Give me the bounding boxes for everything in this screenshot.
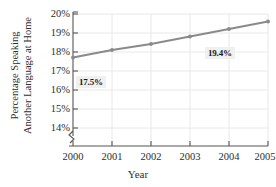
x-axis-label: Year <box>0 168 276 180</box>
chart-figure: Percentage Speaking Another Language at … <box>0 0 276 187</box>
annotation-end-value: 19.4% <box>205 47 235 59</box>
x-tick-label: 2003 <box>170 152 210 163</box>
x-tick-label: 2005 <box>245 152 276 163</box>
annotation-start-value: 17.5% <box>76 76 106 88</box>
x-tick-label: 2000 <box>53 152 93 163</box>
x-axis-tick-labels: 2000 2001 2002 2003 2004 2005 <box>0 152 276 166</box>
horizontal-gridlines <box>73 14 268 128</box>
x-tick-label: 2002 <box>131 152 171 163</box>
x-tick-label: 2001 <box>92 152 132 163</box>
vertical-gridlines <box>112 14 268 145</box>
y-axis-ticks <box>73 14 78 128</box>
x-tick-label: 2004 <box>209 152 249 163</box>
x-axis-ticks <box>73 141 268 146</box>
